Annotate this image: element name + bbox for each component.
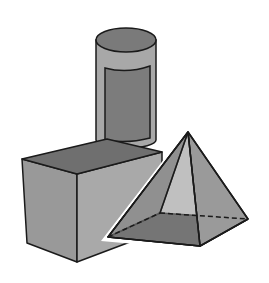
cylinder — [96, 28, 156, 148]
shapes-illustration — [0, 0, 269, 283]
